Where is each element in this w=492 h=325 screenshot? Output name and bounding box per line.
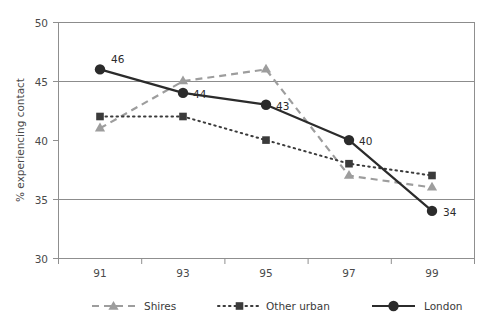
legend-marker-other-urban-square-icon — [236, 302, 244, 310]
legend-label-london: London — [424, 300, 463, 312]
marker-london-97 — [344, 135, 354, 145]
marker-other-urban-95 — [262, 136, 270, 144]
marker-london-95 — [261, 100, 271, 110]
legend-item-shires[interactable]: Shires — [92, 300, 176, 312]
marker-shires-97 — [344, 170, 354, 179]
y-axis-label-35: 35 — [35, 194, 48, 206]
data-label-london-97: 40 — [359, 135, 372, 147]
marker-other-urban-93 — [179, 113, 187, 121]
marker-shires-95 — [261, 64, 271, 73]
chart-legend: Shires Other urban London — [92, 300, 463, 312]
marker-other-urban-91 — [96, 113, 104, 121]
marker-other-urban-99 — [428, 172, 436, 180]
chart-canvas: 50 45 40 35 30 % experiencing contact 91… — [0, 0, 492, 325]
marker-london-99 — [427, 206, 437, 216]
data-label-london-95: 43 — [276, 100, 289, 112]
data-label-london-91: 46 — [111, 53, 125, 65]
line-chart: 50 45 40 35 30 % experiencing contact 91… — [0, 0, 492, 325]
x-axis-label-99: 99 — [425, 267, 438, 279]
x-axis-label-93: 93 — [176, 267, 189, 279]
marker-shires-99 — [427, 182, 437, 191]
series-line-other-urban — [100, 117, 432, 176]
x-axis-label-95: 95 — [259, 267, 272, 279]
marker-london-93 — [178, 88, 188, 98]
legend-label-other-urban: Other urban — [266, 300, 330, 312]
y-axis-ticks — [53, 23, 59, 259]
data-label-london-93: 44 — [193, 88, 207, 100]
marker-london-91 — [95, 64, 105, 74]
x-axis-label-91: 91 — [93, 267, 106, 279]
marker-other-urban-97 — [345, 160, 353, 168]
y-axis-label-45: 45 — [35, 76, 48, 88]
legend-label-shires: Shires — [144, 300, 176, 312]
x-axis-label-97: 97 — [342, 267, 355, 279]
legend-marker-london-circle-icon — [388, 301, 398, 311]
y-axis-label-30: 30 — [35, 253, 48, 265]
y-axis-label-40: 40 — [35, 135, 48, 147]
x-axis-ticks — [59, 259, 475, 265]
data-label-london-99: 34 — [443, 206, 457, 218]
legend-item-london[interactable]: London — [372, 300, 463, 312]
legend-item-other-urban[interactable]: Other urban — [218, 300, 330, 312]
y-axis-title: % experiencing contact — [14, 78, 26, 202]
y-axis-label-50: 50 — [35, 17, 48, 29]
